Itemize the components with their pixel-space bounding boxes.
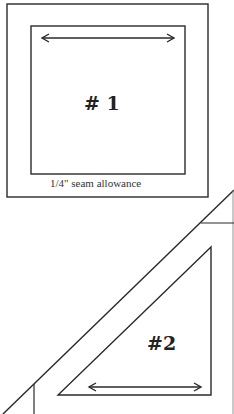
pattern-diagram [0, 0, 234, 414]
piece-2-grain-arrow-icon [89, 383, 201, 391]
piece-2-outer-diagonal [3, 190, 234, 414]
piece-2-sewing-line [58, 247, 211, 395]
piece-1-label: # 1 [84, 92, 120, 114]
piece-1-grain-arrow-icon [42, 34, 174, 42]
piece-2-label: #2 [147, 332, 176, 354]
seam-allowance-note: 1/4" seam allowance [50, 177, 141, 189]
